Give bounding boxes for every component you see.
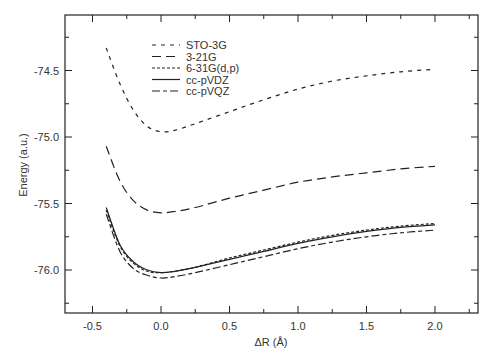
legend: STO-3G3-21G6-31G(d,p)cc-pVDZcc-pVQZ [152,39,239,97]
y-axis-title: Energy (a.u.) [17,133,29,197]
series-cc-pvqz [106,214,435,278]
series-cc-pvdz [106,208,435,273]
x-tick-label: 2.0 [427,320,442,332]
axis-tick-labels: -0.50.00.51.01.52.0-74.5-75.0-75.5-76.0 [34,65,443,333]
series-6-31g-d-p- [106,210,435,273]
y-tick-label: -76.0 [34,264,59,276]
plot-frame [65,15,478,313]
series-3-21g [106,146,435,213]
line-chart: -0.50.00.51.01.52.0-74.5-75.0-75.5-76.0 … [0,0,489,357]
axis-ticks [65,15,478,313]
x-tick-label: 1.5 [359,320,374,332]
x-tick-label: 0.0 [153,320,168,332]
legend-label: 3-21G [186,51,217,63]
legend-label: STO-3G [186,39,227,51]
x-tick-label: 0.5 [222,320,237,332]
x-axis-title: ΔR (Å) [254,336,287,348]
series-sto-3g [106,48,435,132]
x-tick-label: -0.5 [83,320,102,332]
legend-label: cc-pVQZ [186,85,230,97]
data-series [106,48,435,278]
legend-label: cc-pVDZ [186,74,229,86]
y-tick-label: -75.5 [34,198,59,210]
y-tick-label: -74.5 [34,65,59,77]
legend-label: 6-31G(d,p) [186,62,239,74]
x-tick-label: 1.0 [290,320,305,332]
y-tick-label: -75.0 [34,131,59,143]
